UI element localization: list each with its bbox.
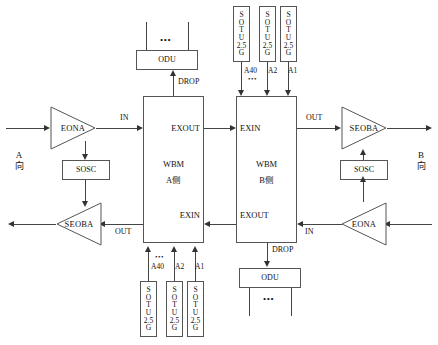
line-odu-top-trib-1 xyxy=(146,22,147,50)
block-wbm-b[interactable]: EXIN WBM B侧 EXOUT xyxy=(236,96,297,243)
channel-label-top-a2: A2 xyxy=(268,67,277,75)
wbm-a-title-line2: A侧 xyxy=(144,173,203,185)
line-odu-top-trib-2 xyxy=(188,22,189,50)
amplifier-eona-left-label: EONA xyxy=(61,123,85,133)
block-odu-top[interactable]: ODU xyxy=(136,50,198,70)
block-sotu-top-3[interactable]: S O T U 2.5 G xyxy=(280,6,297,62)
channel-label-bottom-a1: A1 xyxy=(195,263,204,271)
wbm-a-port-exout: EXOUT xyxy=(171,123,200,133)
wbm-a-title-line1: WBM xyxy=(144,159,203,169)
line-eona-right-to-sosc xyxy=(363,180,364,202)
odu-top-dots: ••• xyxy=(160,36,171,45)
block-sosc-left[interactable]: SOSC xyxy=(62,160,110,180)
wbm-b-title-line1: WBM xyxy=(237,159,296,169)
line-wbmb-exout-to-wbma-exin xyxy=(208,224,236,225)
line-eona-left-to-sosc xyxy=(85,141,86,155)
wbm-b-port-exin: EXIN xyxy=(240,123,260,133)
arrow-eona-right-into-sosc xyxy=(360,176,366,182)
line-sotu-bottom-1-to-wbma xyxy=(148,251,149,281)
direction-label-a-line2: 向 xyxy=(10,161,28,172)
amplifier-eona-left: EONA xyxy=(50,106,96,150)
block-wbm-a[interactable]: EXOUT WBM A侧 EXIN xyxy=(143,96,204,243)
block-sotu-top-2[interactable]: S O T U 2.5 G xyxy=(259,6,276,62)
line-output-right xyxy=(387,128,429,129)
channel-label-bottom-a40: A40 xyxy=(151,263,164,271)
line-eona-right-to-wbmb xyxy=(300,224,342,225)
wbm-b-port-exout: EXOUT xyxy=(240,210,269,220)
direction-label-b-line1: B xyxy=(412,150,430,161)
arrow-eona-left-into-sosc xyxy=(82,154,88,160)
amplifier-seoba-right: SEOBA xyxy=(341,106,387,150)
arrow-into-odu-bottom xyxy=(264,261,270,267)
channel-label-top-a1: A1 xyxy=(288,67,297,75)
line-sosc-left-to-seoba xyxy=(85,180,86,202)
amplifier-eona-right: EONA xyxy=(341,202,387,246)
label-out-bottom: OUT xyxy=(115,228,131,236)
label-drop-top: DROP xyxy=(178,78,199,86)
line-wbmb-out-to-seoba xyxy=(297,128,337,129)
line-input-left xyxy=(6,128,48,129)
line-output-left xyxy=(12,224,56,225)
channel-label-top-a40: A40 xyxy=(244,67,257,75)
line-wbma-exout-to-wbmb-exin xyxy=(204,128,232,129)
line-odu-bottom-trib-1 xyxy=(249,288,250,316)
arrow-sotu-bottom-2-into-wbma xyxy=(171,246,177,252)
line-input-right xyxy=(388,224,432,225)
label-in-top: IN xyxy=(120,114,128,122)
line-sotu-top-1-to-wbmb xyxy=(241,62,242,92)
arrow-sotu-top-2-into-wbmb xyxy=(264,90,270,96)
block-odu-bottom[interactable]: ODU xyxy=(239,268,301,288)
wbm-a-port-exin: EXIN xyxy=(180,210,200,220)
sotu-bottom-3-letter-5: G xyxy=(193,324,198,332)
channel-dots-top: ••• xyxy=(248,76,257,83)
arrow-sotu-top-3-into-wbmb xyxy=(285,90,291,96)
arrow-sotu-top-1-into-wbmb xyxy=(238,90,244,96)
odu-bottom-dots: ••• xyxy=(263,295,274,304)
line-wbma-drop xyxy=(173,74,174,96)
direction-label-b-line2: 向 xyxy=(412,161,430,172)
label-in-bottom: IN xyxy=(305,228,313,236)
amplifier-eona-right-label: EONA xyxy=(352,219,376,229)
direction-label-a: A 向 xyxy=(10,150,28,173)
odu-bottom-label: ODU xyxy=(240,274,300,282)
line-eona-left-to-wbma xyxy=(96,128,140,129)
arrow-into-wbma-exin xyxy=(204,221,210,227)
odu-top-label: ODU xyxy=(137,56,197,64)
block-sotu-top-1[interactable]: S O T U 2.5 G xyxy=(233,6,250,62)
label-out-top: OUT xyxy=(306,114,322,122)
arrow-sotu-bottom-1-into-wbma xyxy=(145,246,151,252)
block-sotu-bottom-3[interactable]: S O T U 2.5 G xyxy=(187,281,204,337)
arrow-sotu-bottom-3-into-wbma xyxy=(192,246,198,252)
amplifier-seoba-left-label: SEOBA xyxy=(65,219,94,229)
arrow-output-right xyxy=(426,125,432,131)
line-wbmb-drop xyxy=(267,243,268,263)
sotu-bottom-2-letter-5: G xyxy=(172,324,177,332)
arrow-sosc-left-into-seoba xyxy=(82,201,88,207)
amplifier-seoba-left: SEOBA xyxy=(56,202,102,246)
block-sotu-bottom-1[interactable]: S O T U 2.5 G xyxy=(140,281,157,337)
arrow-sosc-right-into-seoba xyxy=(360,149,366,155)
line-wbma-out-to-seoba xyxy=(102,224,143,225)
amplifier-seoba-right-label: SEOBA xyxy=(350,123,379,133)
label-drop-bottom: DROP xyxy=(272,246,293,254)
sotu-bottom-1-letter-5: G xyxy=(146,324,151,332)
wbm-b-title-line2: B侧 xyxy=(237,173,296,185)
sotu-top-1-letter-5: G xyxy=(239,49,244,57)
direction-label-a-line1: A xyxy=(10,150,28,161)
arrow-output-left xyxy=(8,221,14,227)
line-odu-bottom-trib-2 xyxy=(291,288,292,316)
direction-label-b: B 向 xyxy=(412,150,430,173)
arrow-into-wbmb-in xyxy=(297,221,303,227)
arrow-into-odu-top xyxy=(170,70,176,76)
sotu-top-2-letter-5: G xyxy=(265,49,270,57)
sosc-left-label: SOSC xyxy=(63,166,109,174)
channel-label-bottom-a2: A2 xyxy=(175,263,184,271)
diagram-canvas: A 向 B 向 EONA IN EXOUT WBM A侧 EXIN DROP O… xyxy=(0,0,438,345)
sosc-right-label: SOSC xyxy=(341,166,387,174)
channel-dots-bottom: ••• xyxy=(155,254,164,261)
block-sotu-bottom-2[interactable]: S O T U 2.5 G xyxy=(166,281,183,337)
sotu-top-3-letter-5: G xyxy=(286,49,291,57)
